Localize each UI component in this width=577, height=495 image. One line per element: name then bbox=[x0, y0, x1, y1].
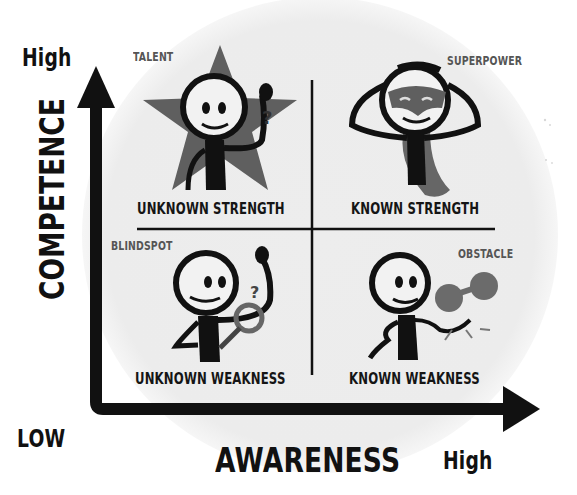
question-mark-icon: ? bbox=[250, 283, 259, 302]
quadrant-tag-superpower: SUPERPOWER bbox=[447, 54, 522, 68]
x-axis-low-label: LOW bbox=[17, 425, 65, 453]
y-axis-title: COMPETENCE bbox=[32, 98, 72, 300]
ball-icon bbox=[435, 284, 463, 312]
competence-awareness-matrix: ? ? bbox=[0, 0, 577, 495]
quadrant-title-known-strength: KNOWN STRENGTH bbox=[351, 200, 479, 218]
quadrant-title-unknown-weakness: UNKNOWN WEAKNESS bbox=[135, 370, 286, 388]
quadrant-tag-obstacle: OBSTACLE bbox=[458, 247, 513, 261]
quadrant-tag-talent: TALENT bbox=[133, 50, 173, 64]
quadrant-title-unknown-strength: UNKNOWN STRENGTH bbox=[137, 200, 285, 218]
y-axis-high-label: High bbox=[22, 44, 71, 72]
backdrop-circle bbox=[82, 0, 558, 473]
y-axis-arrowhead-icon bbox=[77, 66, 115, 108]
x-axis-title: AWARENESS bbox=[215, 440, 400, 480]
x-axis-high-label: High bbox=[443, 447, 492, 475]
quadrant-title-known-weakness: KNOWN WEAKNESS bbox=[349, 370, 480, 388]
quadrant-tag-blindspot: BLINDSPOT bbox=[111, 239, 173, 253]
x-axis-arrowhead-icon bbox=[503, 386, 540, 432]
question-mark-icon: ? bbox=[262, 107, 272, 128]
ball-icon bbox=[470, 272, 498, 300]
speck-decoration bbox=[544, 119, 553, 164]
